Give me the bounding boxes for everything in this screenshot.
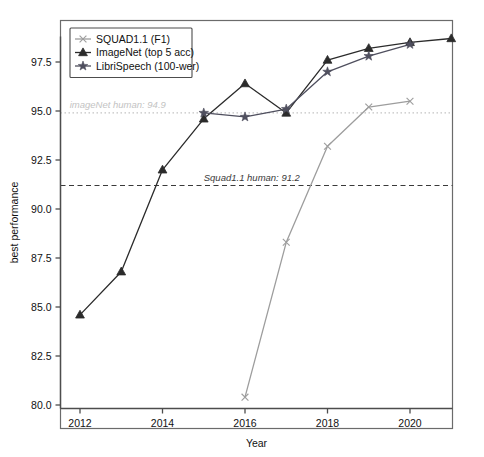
marker-x	[324, 143, 331, 150]
legend-label: SQUAD1.1 (F1)	[96, 33, 170, 45]
legend-label: LibriSpeech (100-wer)	[96, 60, 199, 72]
y-tick-label: 97.5	[31, 56, 52, 68]
imagenet-human-line-label: imageNet human: 94.9	[70, 99, 167, 110]
marker-star	[405, 39, 415, 48]
marker-triangle	[117, 267, 126, 275]
chart-container: imageNet human: 94.9Squad1.1 human: 91.2…	[0, 0, 484, 457]
y-tick-label: 80.0	[31, 399, 52, 411]
legend-label: ImageNet (top 5 acc)	[96, 46, 194, 58]
plot-frame	[61, 21, 453, 429]
y-tick-label: 95.0	[31, 105, 52, 117]
squad-human-line: Squad1.1 human: 91.2	[61, 172, 453, 185]
y-tick-label: 82.5	[31, 350, 52, 362]
y-axis-title: best performance	[8, 181, 20, 263]
plot-border	[61, 21, 453, 429]
marker-triangle	[447, 34, 456, 42]
x-tick-label: 2020	[398, 417, 422, 429]
x-tick-label: 2012	[68, 417, 92, 429]
reference-lines: imageNet human: 94.9Squad1.1 human: 91.2	[61, 99, 453, 186]
y-tick-label: 90.0	[31, 203, 52, 215]
imagenet-human-line: imageNet human: 94.9	[61, 99, 453, 113]
y-tick-label: 85.0	[31, 301, 52, 313]
y-tick-label: 87.5	[31, 252, 52, 264]
x-tick-label: 2014	[151, 417, 175, 429]
x-tick-label: 2018	[316, 417, 340, 429]
data-series	[76, 34, 456, 401]
series-0	[242, 98, 414, 401]
squad-human-line-label: Squad1.1 human: 91.2	[204, 172, 301, 183]
x-tick-label: 2016	[233, 417, 257, 429]
y-tick-label: 92.5	[31, 154, 52, 166]
x-axis-title: Year	[246, 437, 268, 449]
marker-star	[364, 51, 374, 60]
marker-triangle	[241, 79, 250, 87]
axes: 80.082.585.087.590.092.595.097.520122014…	[31, 37, 452, 429]
chart-legend[interactable]: SQUAD1.1 (F1)ImageNet (top 5 acc)LibriSp…	[70, 28, 199, 78]
series-2	[199, 39, 415, 121]
performance-line-chart: imageNet human: 94.9Squad1.1 human: 91.2…	[0, 0, 484, 457]
